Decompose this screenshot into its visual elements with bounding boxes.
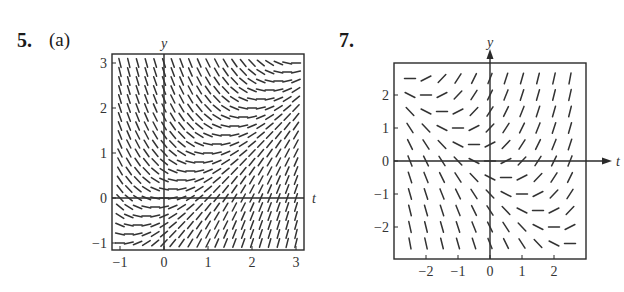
y-tick-label: 2 <box>382 88 389 103</box>
y-tick-label: −2 <box>374 220 389 235</box>
y-tick-label: 1 <box>382 121 389 136</box>
y-axis-arrow-icon <box>487 49 494 59</box>
slope-field-plot-7: −2−1012−2−1012ty <box>0 0 624 292</box>
x-tick-label: 2 <box>551 264 558 279</box>
x-tick-label: −1 <box>451 264 466 279</box>
x-tick-label: −2 <box>419 264 434 279</box>
x-tick-label: 0 <box>487 264 494 279</box>
y-tick-label: 0 <box>382 154 389 169</box>
y-axis-label: y <box>485 35 494 50</box>
t-axis-label: t <box>616 154 621 169</box>
y-tick-label: −1 <box>374 187 389 202</box>
x-tick-label: 1 <box>519 264 526 279</box>
t-axis-arrow-icon <box>602 158 612 165</box>
